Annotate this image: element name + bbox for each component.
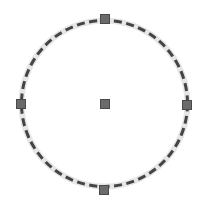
resize-handle-left[interactable] bbox=[16, 99, 26, 109]
drawing-canvas[interactable] bbox=[0, 0, 208, 207]
resize-handle-bottom[interactable] bbox=[99, 185, 109, 195]
resize-handle-right[interactable] bbox=[182, 100, 192, 110]
move-handle-center[interactable] bbox=[100, 99, 110, 109]
resize-handle-top[interactable] bbox=[100, 14, 110, 24]
